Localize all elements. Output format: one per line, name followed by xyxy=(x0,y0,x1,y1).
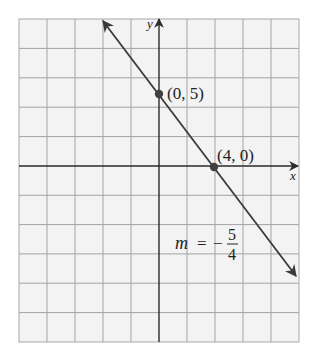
y-axis-label: y xyxy=(145,16,153,31)
x-axis-label: x xyxy=(289,168,296,183)
point-label-4-0: (4, 0) xyxy=(217,146,254,165)
slope-minus-sign: − xyxy=(213,234,223,253)
slope-denominator: 4 xyxy=(228,246,236,263)
slope-m: m xyxy=(175,233,188,253)
point-y-intercept xyxy=(155,90,163,98)
coordinate-plane: y x (0, 5) (4, 0) m = − 5 4 xyxy=(0,0,313,360)
slope-equals: = xyxy=(197,234,207,253)
slope-numerator: 5 xyxy=(228,226,236,243)
point-label-0-5: (0, 5) xyxy=(167,84,204,103)
